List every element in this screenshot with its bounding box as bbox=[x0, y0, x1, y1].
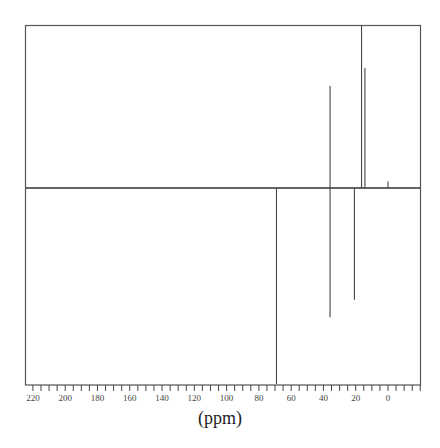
x-tick-label: 140 bbox=[155, 393, 169, 403]
x-axis-ticks bbox=[33, 385, 420, 391]
nmr-spectrum-chart: 220200180160140120100806040200 bbox=[0, 0, 440, 448]
x-tick-label: 160 bbox=[123, 393, 137, 403]
x-tick-label: 180 bbox=[91, 393, 105, 403]
x-axis-tick-labels: 220200180160140120100806040200 bbox=[26, 393, 391, 403]
x-tick-label: 200 bbox=[58, 393, 72, 403]
x-tick-label: 100 bbox=[220, 393, 234, 403]
x-tick-label: 120 bbox=[188, 393, 202, 403]
x-tick-label: 80 bbox=[254, 393, 264, 403]
x-tick-label: 60 bbox=[287, 393, 297, 403]
x-tick-label: 20 bbox=[351, 393, 361, 403]
x-tick-label: 220 bbox=[26, 393, 40, 403]
x-tick-label: 40 bbox=[319, 393, 329, 403]
x-axis-label: (ppm) bbox=[0, 408, 440, 429]
peaks bbox=[276, 26, 388, 384]
x-tick-label: 0 bbox=[386, 393, 391, 403]
